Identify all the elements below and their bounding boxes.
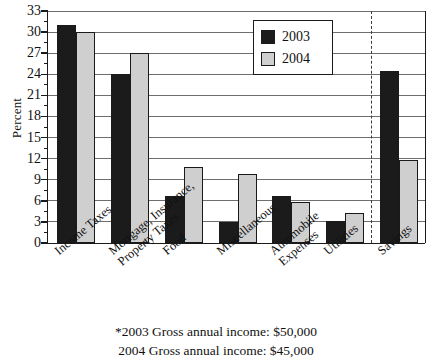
x-axis-category-labels: Income TaxesMortgage, Insurance,Property…	[0, 243, 432, 321]
y-tick-major	[41, 31, 48, 32]
y-tick-major	[41, 116, 48, 117]
y-tick-label: 18	[1, 109, 41, 123]
y-tick-minor	[44, 232, 48, 233]
gridline	[48, 137, 425, 138]
y-tick-minor	[44, 190, 48, 191]
y-tick-minor	[44, 84, 48, 85]
y-tick-minor	[44, 21, 48, 22]
legend-label-2004: 2004	[282, 52, 310, 66]
y-tick-label: 12	[1, 152, 41, 166]
y-tick-label: 33	[1, 4, 41, 18]
y-tick-label: 3	[1, 215, 41, 229]
y-tick-label: 21	[1, 88, 41, 102]
footnote-line-1: *2003 Gross annual income: $50,000	[0, 322, 432, 341]
legend-item-2004: 2004	[261, 48, 332, 70]
gridline	[48, 158, 425, 159]
y-tick-label: 9	[1, 173, 41, 187]
legend: 2003 2004	[253, 20, 333, 75]
y-tick-major	[41, 200, 48, 201]
bar-2003-1	[111, 74, 130, 243]
y-tick-label: 30	[1, 25, 41, 39]
y-tick-minor	[44, 105, 48, 106]
y-tick-minor	[44, 211, 48, 212]
gridline	[48, 95, 425, 96]
gridline	[48, 179, 425, 180]
bar-2003-6	[380, 71, 399, 243]
gridline	[48, 32, 425, 33]
legend-swatch-2004-icon	[261, 52, 275, 66]
gridline	[48, 53, 425, 54]
y-tick-minor	[44, 42, 48, 43]
footnote: *2003 Gross annual income: $50,000 2004 …	[0, 322, 432, 360]
y-tick-major	[41, 158, 48, 159]
legend-label-2003: 2003	[282, 30, 310, 44]
y-tick-label: 24	[1, 67, 41, 81]
bar-2003-0	[57, 25, 76, 243]
gridline	[48, 11, 425, 12]
legend-item-2003: 2003	[261, 26, 332, 48]
plot-right-border	[425, 11, 426, 243]
footnote-line-2: 2004 Gross annual income: $45,000	[0, 341, 432, 360]
y-tick-major	[41, 74, 48, 75]
y-tick-major	[41, 221, 48, 222]
y-axis-tick-labels: 03691215182124273033	[0, 11, 41, 243]
y-tick-minor	[44, 169, 48, 170]
y-tick-label: 15	[1, 131, 41, 145]
bar-chart-figure: Percent 03691215182124273033 2003 2004 I…	[0, 0, 432, 363]
y-tick-major	[41, 137, 48, 138]
y-tick-minor	[44, 127, 48, 128]
y-tick-major	[41, 10, 48, 11]
y-tick-minor	[44, 148, 48, 149]
gridline	[48, 74, 425, 75]
y-tick-major	[41, 179, 48, 180]
gridline	[48, 116, 425, 117]
y-tick-label: 27	[1, 46, 41, 60]
y-tick-major	[41, 95, 48, 96]
y-tick-major	[41, 52, 48, 53]
y-tick-label: 6	[1, 194, 41, 208]
savings-divider-line	[371, 11, 372, 243]
y-tick-minor	[44, 63, 48, 64]
bar-2004-0	[76, 32, 95, 243]
legend-swatch-2003-icon	[261, 30, 275, 44]
